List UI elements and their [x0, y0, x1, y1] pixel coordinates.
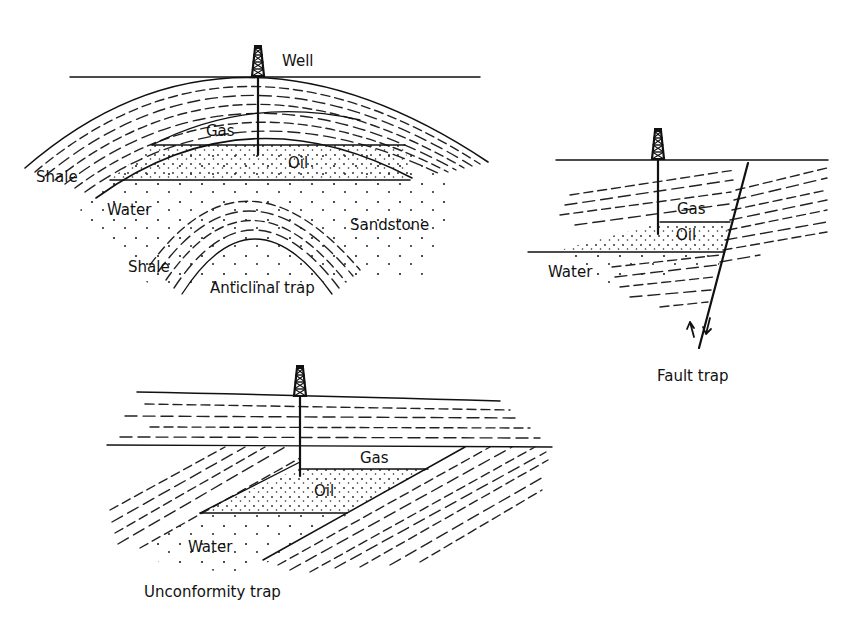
derrick-icon [652, 128, 664, 159]
label-water: Water [188, 538, 233, 556]
label-oil: Oil [314, 482, 334, 500]
caption-anticlinal-trap: Anticlinal trap [210, 279, 315, 297]
label-gas: Gas [360, 449, 389, 467]
fault-trap-panel: Gas Oil Water Fault trap [528, 128, 828, 385]
label-gas: Gas [206, 122, 235, 140]
petroleum-traps-diagram: Well Gas Oil Shale Water Sandstone Shale… [0, 0, 850, 627]
label-water: Water [107, 201, 152, 219]
up-arrow-icon [687, 322, 694, 337]
oil-zone [560, 222, 730, 250]
label-well: Well [282, 52, 314, 70]
derrick-icon [294, 365, 306, 396]
label-shale-lower: Shale [128, 258, 170, 276]
label-water: Water [548, 263, 593, 281]
anticlinal-trap-panel: Well Gas Oil Shale Water Sandstone Shale… [25, 45, 488, 297]
caption-fault-trap: Fault trap [657, 367, 729, 385]
unconformity-trap-panel: Gas Oil Water Unconformity trap [107, 365, 552, 601]
label-oil: Oil [676, 226, 696, 244]
unconformity-surface [107, 445, 552, 447]
label-shale-upper: Shale [36, 168, 78, 186]
derrick-icon [252, 45, 264, 76]
water-zone [150, 515, 347, 573]
label-oil: Oil [288, 154, 308, 172]
caption-unconformity-trap: Unconformity trap [144, 583, 281, 601]
label-gas: Gas [677, 200, 706, 218]
label-sandstone: Sandstone [350, 216, 429, 234]
